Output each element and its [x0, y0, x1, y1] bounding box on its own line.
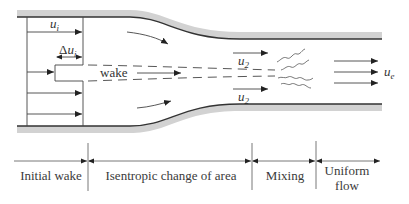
wake-mixing-diagram: ui Δui wake u2 u2 ue Initial wake Isentr… — [0, 0, 409, 204]
exit-velocity-label: ue — [384, 65, 395, 81]
region-label-initial-wake: Initial wake — [18, 169, 84, 182]
initial-velocity-profile — [27, 17, 83, 126]
lower-velocity-label: u2 — [238, 90, 249, 106]
upper-velocity-label: u2 — [238, 54, 249, 70]
region-label-mixing: Mixing — [256, 169, 314, 182]
initial-velocity-label: ui — [50, 17, 59, 33]
upper-channel-wall — [17, 10, 382, 39]
velocity-deficit-label: Δui — [59, 43, 76, 59]
region-label-isentropic-change: Isentropic change of area — [94, 169, 248, 182]
region-label-uniform-flow: Uniform flow — [318, 164, 376, 192]
mixing-turbulence — [277, 49, 313, 88]
exit-velocity-arrows — [334, 61, 378, 83]
wake-label: wake — [100, 66, 127, 79]
lower-channel-wall — [17, 104, 382, 133]
streamlines — [127, 32, 181, 108]
